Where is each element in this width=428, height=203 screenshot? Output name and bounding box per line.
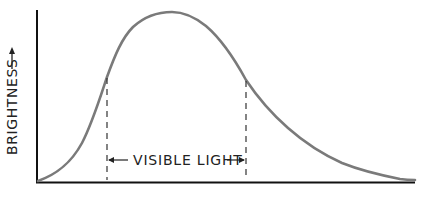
brightness-curve-diagram: VISIBLE LIGHT BRIGHTNESS xyxy=(0,0,428,203)
visible-light-label: VISIBLE LIGHT xyxy=(133,152,243,168)
y-axis-label: BRIGHTNESS xyxy=(4,59,20,155)
left-arrow-icon xyxy=(108,157,128,163)
